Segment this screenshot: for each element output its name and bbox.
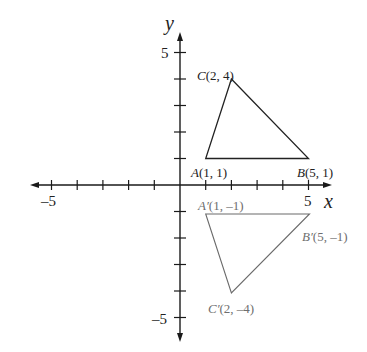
vertex-label-a: A(1, 1) — [190, 165, 227, 180]
x-axis-right-arrow-icon — [323, 182, 332, 188]
coordinate-plane-diagram: –5 5 x 5 –5 y C(2, 4) A(1, 1) B(5, 1) — [0, 0, 367, 352]
y-axis-down-arrow-icon — [177, 333, 183, 342]
x-axis: –5 5 x — [30, 180, 333, 212]
vertex-label-b-prime: B′(5, –1) — [302, 229, 347, 244]
x-tick-label-neg5: –5 — [40, 193, 56, 209]
x-axis-label: x — [323, 190, 333, 212]
vertex-label-b: B(5, 1) — [297, 165, 333, 180]
y-tick-label-5: 5 — [161, 45, 169, 61]
y-axis-up-arrow-icon — [177, 32, 183, 41]
triangle-abc-shape — [206, 79, 309, 159]
y-tick-label-neg5: –5 — [151, 311, 167, 327]
y-axis: 5 –5 y — [151, 12, 186, 342]
vertex-label-c-prime: C′(2, –4) — [208, 301, 254, 316]
triangle-abc-prime: A′(1, –1) B′(5, –1) C′(2, –4) — [197, 198, 347, 316]
vertex-label-c: C(2, 4) — [197, 68, 234, 83]
y-axis-label: y — [163, 12, 174, 35]
x-axis-left-arrow-icon — [30, 182, 39, 188]
vertex-label-a-prime: A′(1, –1) — [197, 198, 243, 213]
x-tick-label-5: 5 — [304, 193, 312, 209]
triangle-abc-prime-shape — [206, 214, 310, 293]
triangle-abc: C(2, 4) A(1, 1) B(5, 1) — [190, 68, 333, 180]
